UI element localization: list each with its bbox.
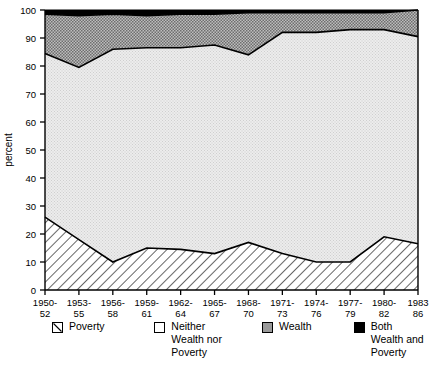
y-tick-label: 30 (25, 201, 36, 212)
y-tick-label: 60 (25, 117, 36, 128)
y-tick-label: 0 (31, 285, 36, 296)
x-tick-label-line1: 1965- (202, 297, 226, 308)
x-tick-label-line2: 64 (175, 308, 186, 318)
gray-swatch-icon (262, 322, 273, 333)
x-tick-label-line2: 55 (74, 308, 85, 318)
y-tick-label: 70 (25, 89, 36, 100)
y-tick-label: 90 (25, 33, 36, 44)
x-tick-label-line1: 1968- (236, 297, 260, 308)
y-tick-label: 40 (25, 173, 36, 184)
x-tick-label-line1: 1983 (407, 297, 428, 308)
legend-item-both-wealth-and-poverty[interactable]: Both Wealth and Poverty (354, 320, 439, 359)
x-tick-label-line1: 1959- (135, 297, 159, 308)
x-tick-label-line1: 1974- (304, 297, 328, 308)
legend-item-neither-wealth-nor-poverty[interactable]: Neither Wealth nor Poverty (154, 320, 236, 359)
x-tick-label-line1: 1950- (33, 297, 57, 308)
x-tick-label-line1: 1971- (270, 297, 294, 308)
x-tick-label-line1: 1956- (101, 297, 125, 308)
x-tick-label-line2: 67 (209, 308, 220, 318)
x-tick-label-line2: 76 (311, 308, 322, 318)
series-band-neither-wealth-nor-poverty (45, 30, 418, 262)
black-swatch-icon (354, 322, 365, 333)
chart-svg: 0102030405060708090100 1950-521953-55195… (0, 0, 439, 318)
y-axis-ticks: 0102030405060708090100 (20, 5, 45, 296)
x-tick-label-line1: 1962- (168, 297, 192, 308)
white-swatch-icon (154, 322, 165, 333)
x-axis-ticks: 1950-521953-551956-581959-611962-641965-… (33, 290, 429, 318)
x-tick-label-line2: 52 (40, 308, 51, 318)
plot-area: 0102030405060708090100 1950-521953-55195… (0, 0, 439, 318)
legend-label-wealth: Wealth (279, 320, 312, 333)
legend-label-neither-wealth-nor-poverty: Neither Wealth nor Poverty (171, 320, 222, 359)
y-tick-label: 20 (25, 229, 36, 240)
x-tick-label-line1: 1953- (67, 297, 91, 308)
stacked-area-chart-figure: 0102030405060708090100 1950-521953-55195… (0, 0, 439, 374)
legend-item-wealth[interactable]: Wealth (262, 320, 328, 333)
legend-label-both-wealth-and-poverty: Both Wealth and Poverty (371, 320, 424, 359)
y-tick-label: 100 (20, 5, 36, 16)
x-tick-label-line2: 73 (277, 308, 288, 318)
chart-legend: Poverty Neither Wealth nor Poverty Wealt… (0, 320, 439, 374)
x-tick-label-line2: 79 (345, 308, 356, 318)
x-tick-label-line2: 82 (379, 308, 390, 318)
x-tick-label-line2: 70 (243, 308, 254, 318)
y-tick-label: 50 (25, 145, 36, 156)
legend-label-poverty: Poverty (69, 320, 105, 333)
hatch-swatch-icon (52, 322, 63, 333)
x-tick-label-line1: 1977- (338, 297, 362, 308)
x-tick-label-line1: 1980- (372, 297, 396, 308)
y-tick-label: 80 (25, 61, 36, 72)
x-tick-label-line2: 58 (108, 308, 119, 318)
x-tick-label-line2: 86 (413, 308, 424, 318)
legend-item-poverty[interactable]: Poverty (52, 320, 128, 333)
x-tick-label-line2: 61 (141, 308, 152, 318)
y-axis-title: percent (3, 133, 14, 167)
y-tick-label: 10 (25, 257, 36, 268)
